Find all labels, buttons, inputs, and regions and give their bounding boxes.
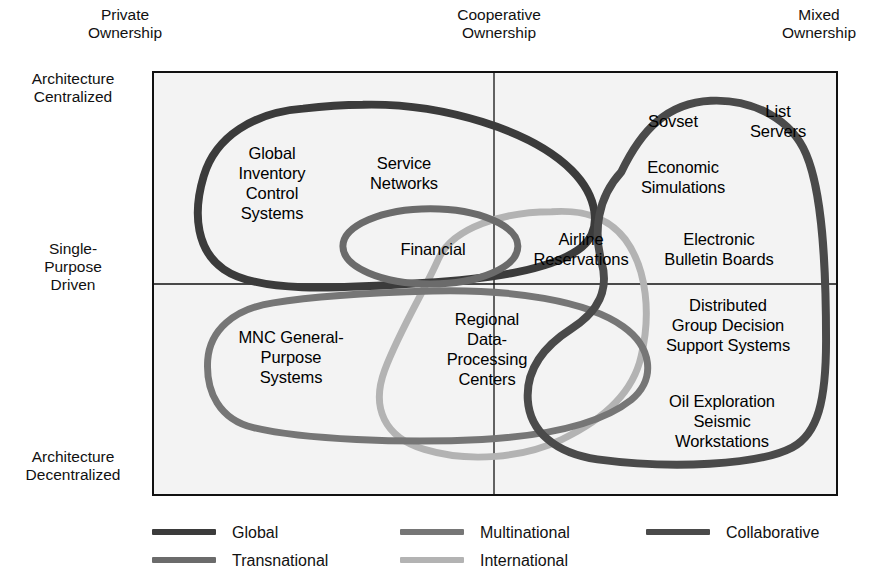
legend-swatch-international xyxy=(400,557,464,563)
axis-label-architecture-centralized: Architecture Centralized xyxy=(2,70,144,106)
legend-label-multinational: Multinational xyxy=(480,522,570,544)
node-financial: Financial xyxy=(368,239,498,259)
legend-label-collaborative: Collaborative xyxy=(726,522,819,544)
node-list-servers: List Servers xyxy=(732,101,824,141)
node-electronic-bulletin-boards: Electronic Bulletin Boards xyxy=(624,229,814,269)
axis-label-mixed-ownership: Mixed Ownership xyxy=(760,6,878,42)
node-oil-exploration: Oil Exploration Seismic Workstations xyxy=(620,391,824,451)
node-dgdss: Distributed Group Decision Support Syste… xyxy=(628,295,828,355)
node-sovset: Sovset xyxy=(620,111,726,131)
node-service-networks: Service Networks xyxy=(338,153,470,193)
legend-label-global: Global xyxy=(232,522,278,544)
legend-swatch-transnational xyxy=(152,557,216,563)
legend-swatch-collaborative xyxy=(646,529,710,535)
axis-label-single-purpose-driven: Single- Purpose Driven xyxy=(2,240,144,294)
node-economic-simulations: Economic Simulations xyxy=(602,157,764,197)
legend-swatch-global xyxy=(152,529,216,535)
node-global-inventory: Global Inventory Control Systems xyxy=(206,143,338,223)
axis-label-cooperative-ownership: Cooperative Ownership xyxy=(424,6,574,42)
legend: Global Transnational Multinational Inter… xyxy=(152,522,879,580)
legend-swatch-multinational xyxy=(400,529,464,535)
plot-area: Global Inventory Control Systems Service… xyxy=(152,71,838,496)
node-regional-dpc: Regional Data- Processing Centers xyxy=(412,309,562,389)
legend-label-international: International xyxy=(480,550,568,572)
axis-label-private-ownership: Private Ownership xyxy=(55,6,195,42)
axis-label-architecture-decentralized: Architecture Decentralized xyxy=(0,448,146,484)
diagram-root: Private Ownership Cooperative Ownership … xyxy=(0,0,879,584)
legend-label-transnational: Transnational xyxy=(232,550,328,572)
node-mnc-general-purpose: MNC General- Purpose Systems xyxy=(200,327,382,387)
